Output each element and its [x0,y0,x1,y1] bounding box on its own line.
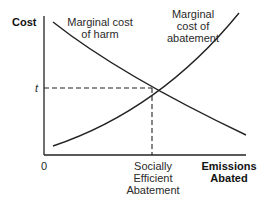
abatement-curve-label: Marginal cost of abatement [158,8,228,44]
efficient-line3: Abatement [122,184,184,196]
x-label-line1: Emissions [198,160,260,172]
x-axis-label: Emissions Abated [198,160,260,184]
y-axis-label: Cost [12,16,36,28]
efficient-line1: Socially [122,160,184,172]
abatement-label-line1: Marginal [158,8,228,20]
abatement-label-line2: cost of [158,20,228,32]
abatement-label-line3: abatement [158,32,228,44]
harm-label-line1: Marginal cost [60,16,140,28]
efficient-abatement-label: Socially Efficient Abatement [122,160,184,196]
origin-label: 0 [41,160,47,172]
x-label-line2: Abated [198,172,260,184]
harm-label-line2: of harm [60,28,140,40]
t-label: t [35,82,38,94]
efficient-line2: Efficient [122,172,184,184]
harm-curve-label: Marginal cost of harm [60,16,140,40]
